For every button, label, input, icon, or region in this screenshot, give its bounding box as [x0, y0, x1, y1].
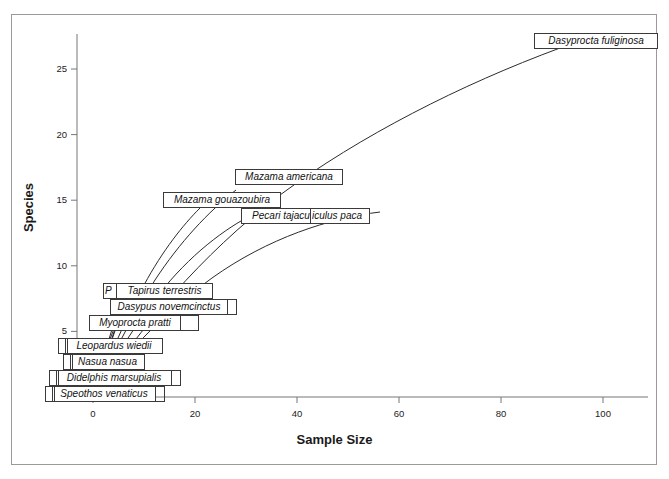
- species-label-nasua-nasua: Nasua nasua: [70, 354, 145, 370]
- xtick-label-0: 0: [73, 408, 113, 419]
- species-label-trailer-box-dasypus: [227, 299, 237, 315]
- ytick-label-5: 5: [47, 325, 67, 336]
- species-label-dasyprocta-fuliginosa: Dasyprocta fuliginosa: [534, 33, 658, 49]
- species-label-panthera-truncated: P: [103, 283, 117, 299]
- species-label-leopardus-wiedii: Leopardus wiedii: [65, 338, 163, 354]
- species-label-speothos-venaticus: Speothos venaticus: [52, 386, 156, 402]
- ytick-label-15: 15: [47, 194, 67, 205]
- species-label-didelphis-marsupialis: Didelphis marsupialis: [56, 370, 172, 386]
- xtick-label-40: 40: [277, 408, 317, 419]
- ytick-label-10: 10: [47, 260, 67, 271]
- species-label-trailer-box-speothos: [155, 386, 165, 402]
- species-label-trailer-box-didelphis: [171, 370, 181, 386]
- species-label-mazama-gouazoubira: Mazama gouazoubira: [163, 192, 281, 208]
- ytick-label-25: 25: [47, 63, 67, 74]
- x-axis-ticks: [93, 397, 603, 403]
- xtick-label-80: 80: [481, 408, 521, 419]
- species-label-leader-box-leopardus: [58, 338, 68, 354]
- species-label-leader-box-didelphis: [49, 370, 59, 386]
- x-axis-title: Sample Size: [0, 432, 669, 447]
- species-label-leader-box-speothos: [45, 386, 55, 402]
- xtick-label-60: 60: [379, 408, 419, 419]
- y-axis-title: Species: [21, 158, 36, 258]
- species-label-pecari-tajacu: Pecari tajacu: [241, 208, 321, 224]
- species-label-cuniculus-paca: iculus paca: [310, 208, 370, 224]
- species-label-tapirus-terrestris: Tapirus terrestris: [116, 283, 213, 299]
- figure-screenshot: 0 5 10 15 20 25 0 20 40 60 80 100 Sample…: [0, 0, 669, 479]
- ytick-label-20: 20: [47, 129, 67, 140]
- species-label-myoprocta-pratti-extra: [89, 315, 199, 331]
- species-label-leader-box-nasua: [63, 354, 73, 370]
- species-label-mazama-americana: Mazama americana: [235, 169, 343, 185]
- xtick-label-20: 20: [175, 408, 215, 419]
- xtick-label-100: 100: [583, 408, 623, 419]
- species-label-dasypus-novemcinctus: Dasypus novemcinctus: [110, 299, 228, 315]
